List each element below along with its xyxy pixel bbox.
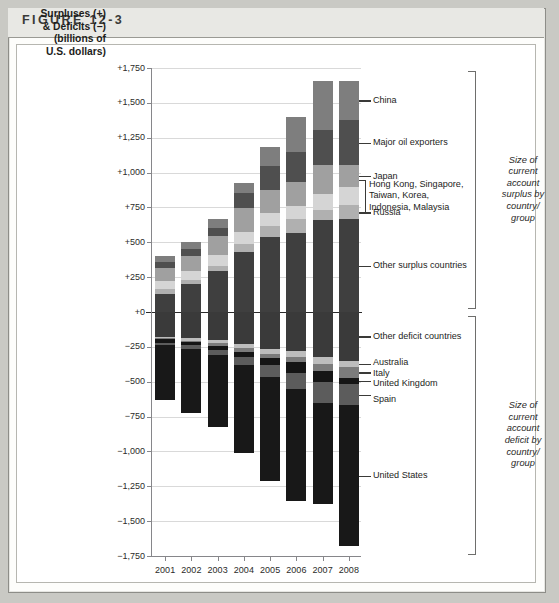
y-tick-label: −1,500 <box>99 516 145 526</box>
leader-line <box>359 143 371 144</box>
bar-segment <box>181 242 201 249</box>
bar-2004[interactable] <box>234 68 254 556</box>
bar-segment <box>286 219 306 232</box>
leader-line <box>359 381 371 382</box>
bar-segment <box>260 365 280 377</box>
x-tick-label: 2008 <box>329 565 369 575</box>
surplus-group-brace <box>475 71 476 308</box>
x-tick-mark <box>244 556 245 561</box>
y-tick-mark <box>147 242 152 243</box>
bar-segment <box>339 205 359 219</box>
bar-2007[interactable] <box>313 68 333 556</box>
y-tick-label: −500 <box>99 376 145 386</box>
bar-segment <box>339 384 359 406</box>
bar-segment <box>313 312 333 357</box>
bar-segment <box>234 232 254 244</box>
bar-2003[interactable] <box>208 68 228 556</box>
bar-segment <box>260 237 280 312</box>
leader-line <box>359 266 371 267</box>
bar-segment <box>181 249 201 255</box>
x-tick-mark <box>296 556 297 561</box>
bar-segment <box>181 312 201 338</box>
y-tick-label: +1,750 <box>99 63 145 73</box>
bar-segment <box>339 312 359 361</box>
asia-group-bracket <box>365 180 366 212</box>
bar-segment <box>313 371 333 382</box>
y-tick-mark <box>147 347 152 348</box>
bar-segment <box>208 228 228 236</box>
y-tick-mark <box>147 68 152 69</box>
bar-2006[interactable] <box>286 68 306 556</box>
annotation-other-surplus-countries: Other surplus countries <box>373 260 467 271</box>
annotation-united-states: United States <box>373 470 428 481</box>
surplus-group-label-line-6: group <box>486 213 559 225</box>
x-tick-mark <box>323 556 324 561</box>
bar-segment <box>155 281 175 289</box>
y-tick-mark <box>147 173 152 174</box>
bar-segment <box>208 236 228 255</box>
bar-segment <box>234 244 254 252</box>
bar-segment <box>234 357 254 365</box>
bar-segment <box>155 294 175 312</box>
bar-2005[interactable] <box>260 68 280 556</box>
bar-segment <box>234 208 254 232</box>
bar-segment <box>313 165 333 194</box>
y-tick-label: −1,000 <box>99 446 145 456</box>
bar-segment <box>208 219 228 229</box>
bar-segment <box>260 312 280 349</box>
bar-segment <box>208 355 228 428</box>
bar-segment <box>181 256 201 271</box>
y-tick-mark <box>147 486 152 487</box>
bar-segment <box>313 382 333 402</box>
bar-segment <box>339 120 359 165</box>
annotation-united-kingdom: United Kingdom <box>373 378 438 389</box>
bar-segment <box>260 358 280 365</box>
surplus-group-label-line-5: country/ <box>486 201 559 213</box>
y-tick-label: +250 <box>99 272 145 282</box>
bar-segment <box>286 152 306 182</box>
bar-segment <box>339 367 359 377</box>
bar-segment <box>234 312 254 344</box>
bar-segment <box>339 405 359 546</box>
annotation-asia-group: Hong Kong, Singapore,Taiwan, Korea,Indon… <box>369 179 464 213</box>
bar-segment <box>234 252 254 312</box>
bar-segment <box>155 345 175 399</box>
x-axis-line <box>151 556 361 557</box>
bar-segment <box>208 266 228 271</box>
annotation-asia-group-line-1: Hong Kong, Singapore, <box>369 179 464 190</box>
leader-line <box>359 372 371 373</box>
bar-segment <box>286 362 306 373</box>
deficit-group-brace-tick-1 <box>468 554 476 555</box>
y-tick-mark <box>147 277 152 278</box>
y-tick-mark <box>147 382 152 383</box>
bar-segment <box>339 219 359 312</box>
bar-2002[interactable] <box>181 68 201 556</box>
bar-segment <box>155 312 175 337</box>
figure-root: FIGURE 12-3 Surpluses (+) & Deficits (−)… <box>0 0 559 603</box>
bar-segment <box>313 210 333 220</box>
deficit-group-label: Size ofcurrentaccountdeficit bycountry/g… <box>486 400 559 470</box>
bar-segment <box>234 183 254 193</box>
bar-segment <box>260 190 280 213</box>
x-tick-mark <box>218 556 219 561</box>
surplus-group-label: Size ofcurrentaccountsurplus bycountry/g… <box>486 155 559 225</box>
asia-group-bracket-tick-0 <box>359 180 365 181</box>
bar-2008[interactable] <box>339 68 359 556</box>
bar-segment <box>286 373 306 388</box>
leader-line <box>359 336 371 337</box>
annotation-spain: Spain <box>373 394 396 405</box>
annotation-major-oil-exporters: Major oil exporters <box>373 137 448 148</box>
y-tick-mark <box>147 521 152 522</box>
plot-area: +1,750+1,500+1,250+1,000+750+500+250+0−2… <box>151 68 361 556</box>
y-tick-label: −1,750 <box>99 551 145 561</box>
y-axis-title-line-2: & Deficits (−) <box>6 21 106 34</box>
bar-segment <box>286 233 306 312</box>
y-tick-label: +0 <box>99 307 145 317</box>
annotation-asia-group-line-2: Taiwan, Korea, <box>369 190 464 201</box>
bar-segment <box>260 213 280 226</box>
y-axis-title: Surpluses (+) & Deficits (−) (billions o… <box>6 8 106 58</box>
deficit-group-label-line-6: group <box>486 458 559 470</box>
bar-2001[interactable] <box>155 68 175 556</box>
y-tick-mark <box>147 103 152 104</box>
bar-segment <box>313 130 333 165</box>
